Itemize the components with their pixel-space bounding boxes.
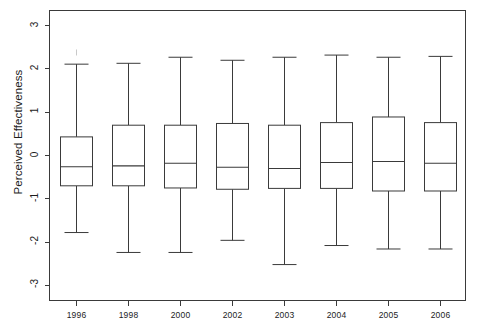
- box-rect: [61, 137, 93, 186]
- box-2002: [217, 60, 249, 240]
- x-tick-label-2005: 2005: [369, 310, 409, 320]
- x-tick-label-2003: 2003: [265, 310, 305, 320]
- x-tick-label-2002: 2002: [213, 310, 253, 320]
- box-1996: [61, 49, 93, 232]
- box-2005: [373, 57, 405, 249]
- x-tick-label-1998: 1998: [109, 310, 149, 320]
- x-tick-label-2000: 2000: [161, 310, 201, 320]
- box-2006: [425, 56, 457, 249]
- box-2004: [321, 55, 353, 245]
- box-2000: [165, 57, 197, 252]
- plot-canvas: [0, 0, 480, 329]
- box-rect: [165, 125, 197, 188]
- x-tick-label-2006: 2006: [421, 310, 461, 320]
- box-1998: [113, 63, 145, 252]
- y-tick-label: -1: [28, 188, 39, 206]
- x-tick-label-2004: 2004: [317, 310, 357, 320]
- y-tick-label: 1: [28, 102, 39, 120]
- box-rect: [113, 125, 145, 186]
- box-rect: [269, 125, 301, 188]
- y-axis-title: Perceived Effectiveness: [12, 52, 24, 212]
- y-tick-label: 0: [28, 145, 39, 163]
- box-rect: [425, 123, 457, 191]
- box-rect: [321, 123, 353, 189]
- x-tick-label-1996: 1996: [57, 310, 97, 320]
- x-axis-ticks: [77, 301, 441, 306]
- box-2003: [269, 57, 301, 264]
- box-rect: [373, 117, 405, 191]
- boxplot-figure: Perceived Effectiveness 3210-1-2-3 19961…: [0, 0, 480, 329]
- box-rect: [217, 123, 249, 189]
- y-axis-ticks: [45, 26, 50, 286]
- y-tick-label: 3: [28, 15, 39, 33]
- box-series: [61, 49, 457, 264]
- y-tick-label: -3: [28, 275, 39, 293]
- y-tick-label: 2: [28, 58, 39, 76]
- y-tick-label: -2: [28, 232, 39, 250]
